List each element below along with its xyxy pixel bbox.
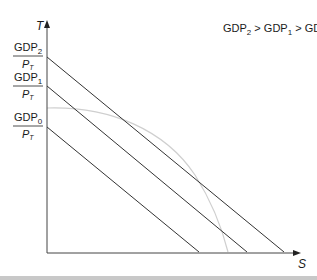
budget-line-gdp1 [47, 86, 247, 252]
svg-text:PT: PT [22, 128, 34, 141]
x-axis-arrow-icon [293, 250, 301, 256]
budget-line-gdp2 [47, 57, 284, 252]
ppf-curve [47, 108, 228, 252]
footer-divider [0, 276, 317, 280]
diagram-canvas: T S GDP2 > GDP1 > GDP0 GDP2 PT GDP1 PT G… [0, 0, 317, 280]
x-axis-label: S [298, 257, 306, 271]
gdp-relation-label: GDP2 > GDP1 > GDP0 [223, 22, 317, 37]
svg-text:GDP2: GDP2 [14, 41, 43, 56]
intercept-label-gdp2: GDP2 PT [13, 41, 43, 71]
y-axis-arrow-icon [44, 20, 50, 28]
intercept-label-gdp0: GDP0 PT [13, 111, 43, 141]
svg-text:GDP0: GDP0 [14, 111, 43, 126]
svg-text:PT: PT [22, 58, 34, 71]
budget-line-gdp0 [47, 127, 199, 252]
svg-text:PT: PT [22, 88, 34, 101]
y-axis-label: T [36, 19, 45, 33]
intercept-label-gdp1: GDP1 PT [13, 71, 43, 101]
svg-text:GDP1: GDP1 [14, 71, 43, 86]
